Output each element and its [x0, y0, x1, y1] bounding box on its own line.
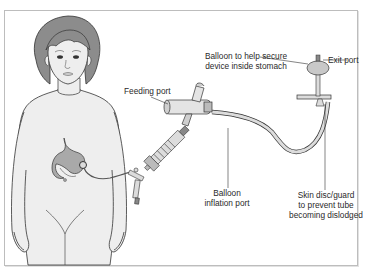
label-balloon-secure-line1: Balloon to help secure: [182, 51, 310, 61]
left-eye: [57, 55, 63, 59]
stoma-button: [80, 162, 87, 169]
label-skin-disc-line3: becoming dislodged: [270, 210, 367, 220]
label-skin-disc: Skin disc/guard to prevent tube becoming…: [270, 190, 367, 220]
retention-balloon: [307, 61, 329, 75]
exit-port-tip: [316, 55, 320, 61]
feeding-port-connector: [164, 83, 212, 126]
child-figure: [12, 84, 127, 265]
skin-disc: [297, 95, 331, 99]
label-feeding-port: Feeding port: [124, 86, 171, 96]
small-extension-set: [128, 168, 144, 204]
right-eye: [73, 55, 79, 59]
syringe: [141, 123, 192, 174]
label-balloon-inflation-line1: Balloon: [200, 188, 254, 198]
label-balloon-inflation: Balloon inflation port: [200, 188, 254, 208]
extension-tube: [212, 102, 328, 152]
label-skin-disc-line2: to prevent tube: [270, 200, 367, 210]
label-balloon-secure: Balloon to help secure device inside sto…: [182, 51, 310, 71]
label-balloon-secure-line2: device inside stomach: [182, 61, 310, 71]
label-exit-port: Exit port: [328, 55, 358, 65]
label-balloon-inflation-line2: inflation port: [200, 198, 254, 208]
label-skin-disc-line1: Skin disc/guard: [270, 190, 367, 200]
mouth: [63, 73, 73, 76]
